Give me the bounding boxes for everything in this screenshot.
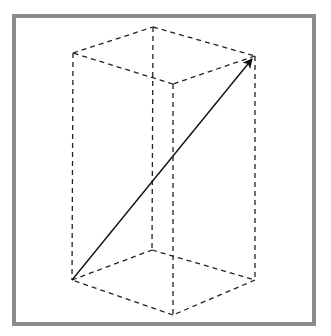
edge-bottom-back-right xyxy=(152,250,255,280)
edge-bottom-right-front xyxy=(173,280,255,315)
edge-top-front-left xyxy=(73,53,173,84)
space-diagonal-arrow xyxy=(72,59,252,280)
edge-top-left-back xyxy=(73,27,153,53)
edge-top-back-right xyxy=(153,27,255,56)
edge-vertical-left xyxy=(72,53,73,280)
prism-edges xyxy=(72,27,255,315)
edge-bottom-front-left xyxy=(72,280,173,315)
edge-vertical-back xyxy=(152,27,153,250)
prism-diagram xyxy=(0,0,331,336)
